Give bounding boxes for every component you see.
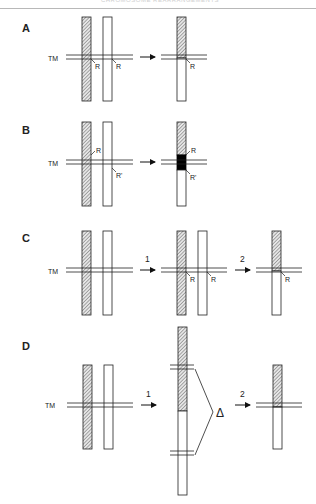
site-pointer: [186, 151, 190, 155]
site-label: R: [191, 147, 196, 154]
step-label: 2: [240, 254, 245, 264]
tm-label-a: TM: [48, 55, 58, 62]
panel-label-c: C: [22, 232, 30, 244]
site-label: R: [190, 63, 195, 70]
rearrangement-diagram: A TM R R R B TM R R': [0, 0, 316, 504]
inverted-block: [177, 155, 186, 170]
panel-label-b: B: [22, 124, 30, 136]
hatched-segment: [177, 17, 186, 58]
deletion-bracket: [195, 369, 213, 455]
white-chromosome: [103, 231, 112, 315]
white-segment: [178, 411, 187, 495]
site-label: R: [285, 276, 290, 283]
white-segment: [273, 407, 282, 449]
hatched-segment: [177, 122, 186, 155]
tm-label-b: TM: [48, 160, 58, 167]
site-pointer: [91, 151, 95, 155]
panel-label-d: D: [22, 340, 30, 352]
tm-label-c: TM: [48, 268, 58, 275]
hatched-segment: [272, 231, 281, 271]
site-label: R': [116, 172, 122, 179]
site-label: R: [211, 276, 216, 283]
step-label: 1: [146, 389, 151, 399]
panel-a: A TM R R R: [22, 17, 207, 101]
white-segment: [177, 58, 186, 101]
panel-label-a: A: [22, 22, 30, 34]
hatched-chromosome: [82, 231, 91, 315]
step-label: 2: [240, 389, 245, 399]
site-label: R: [190, 276, 195, 283]
deletion-label: Δ: [216, 406, 224, 420]
white-segment: [272, 271, 281, 315]
step-label: 1: [145, 254, 150, 264]
panel-b: B TM R R' R R': [22, 122, 207, 206]
site-label: R: [96, 147, 101, 154]
panel-c: C TM 1 R R 2 R: [22, 231, 302, 315]
hatched-segment: [273, 365, 282, 407]
site-label: R: [116, 63, 121, 70]
tm-label-d: TM: [45, 402, 55, 409]
hatched-chromosome: [177, 231, 186, 315]
white-chromosome: [198, 231, 207, 315]
panel-d: D TM 1 Δ 2: [22, 327, 302, 495]
site-label: R': [190, 174, 196, 181]
white-segment: [177, 170, 186, 206]
site-label: R: [95, 63, 100, 70]
